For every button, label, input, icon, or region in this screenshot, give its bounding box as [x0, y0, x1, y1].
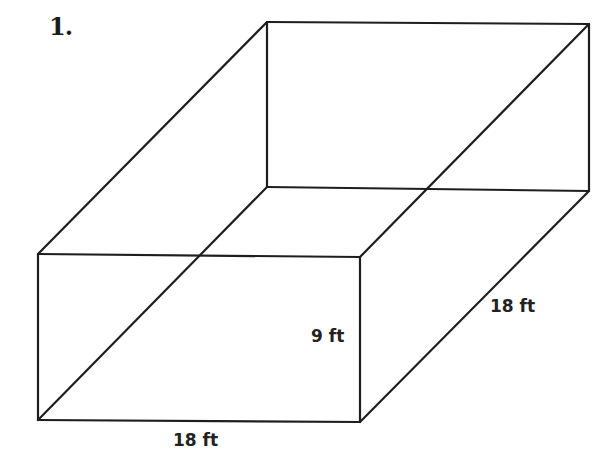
rectangular-prism-diagram: [0, 0, 610, 474]
bottom-left-depth-edge: [38, 187, 267, 420]
height-label: 9 ft: [311, 326, 344, 346]
front-bottom-edge: [38, 420, 360, 422]
top-right-depth-edge: [360, 24, 589, 257]
depth-label: 18 ft: [490, 296, 535, 316]
bottom-right-depth-edge: [360, 191, 589, 422]
figure-stage: 1. 9 ft 18 ft 18 ft: [0, 0, 610, 474]
top-left-depth-edge: [38, 22, 267, 254]
front-top-edge: [38, 254, 360, 257]
back-top-edge: [267, 22, 589, 24]
width-label: 18 ft: [173, 430, 218, 450]
